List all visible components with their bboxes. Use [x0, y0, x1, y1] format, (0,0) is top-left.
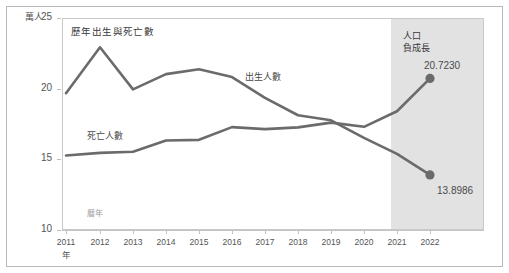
chart-screenshot: 萬人 25201510 歷年出生與死亡數 人口 負成長 出生人數 死亡人數 曆年… [0, 0, 509, 273]
series-lines [0, 0, 509, 273]
line-births [66, 47, 430, 175]
endpoint-marker-births [425, 170, 434, 179]
endpoint-marker-deaths [425, 74, 434, 83]
value-label-deaths-2022: 20.7230 [424, 60, 460, 71]
value-label-births-2022: 13.8986 [437, 185, 473, 196]
